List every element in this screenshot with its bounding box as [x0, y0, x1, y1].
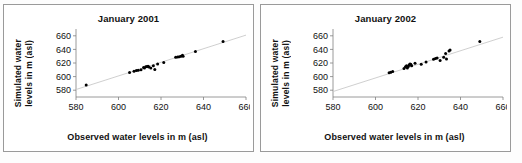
data-point	[442, 56, 445, 59]
y-axis-title: Simulated water levels in m (asl)	[267, 27, 295, 119]
data-point	[182, 55, 185, 58]
chart-panel-january-2001: January 2001 Simulated water levels in m…	[3, 4, 254, 152]
data-point	[128, 71, 131, 74]
plot-area: 580600620640660580600620640660	[38, 25, 250, 121]
scatter-plot-svg: 580600620640660580600620640660	[38, 25, 250, 121]
x-axis-title: Observed water levels in m (asl)	[283, 132, 506, 142]
data-point	[153, 68, 156, 71]
y-tick-label: 660	[56, 31, 71, 41]
data-point	[156, 63, 159, 66]
x-tick-label: 600	[368, 102, 383, 112]
data-point	[425, 60, 428, 63]
y-tick-label: 600	[313, 72, 328, 82]
x-tick-label: 620	[153, 102, 168, 112]
x-tick-label: 660	[495, 102, 507, 112]
y-axis-title-line1: Simulated water	[270, 39, 281, 107]
y-tick-label: 620	[56, 58, 71, 68]
y-axis-title: Simulated water levels in m (asl)	[10, 27, 38, 119]
y-tick-label: 660	[313, 31, 328, 41]
y-tick-label: 600	[56, 72, 71, 82]
data-point	[194, 50, 197, 53]
x-tick-label: 620	[410, 102, 425, 112]
chart-panel-january-2002: January 2002 Simulated water levels in m…	[260, 4, 511, 152]
data-point	[445, 57, 448, 60]
data-point	[162, 61, 165, 64]
data-point	[149, 67, 152, 70]
x-tick-label: 600	[111, 102, 126, 112]
figure-container: January 2001 Simulated water levels in m…	[0, 0, 522, 163]
y-tick-label: 640	[56, 45, 71, 55]
y-axis-title-line2: levels in m (asl)	[281, 40, 292, 107]
data-point	[152, 64, 155, 67]
x-tick-label: 640	[196, 102, 211, 112]
x-tick-label: 640	[453, 102, 468, 112]
data-point	[414, 62, 417, 65]
trend-line	[333, 37, 503, 91]
data-point	[85, 84, 88, 87]
x-tick-label: 660	[238, 102, 250, 112]
y-axis-title-line1: Simulated water	[13, 39, 24, 107]
data-point	[391, 70, 394, 73]
y-tick-label: 620	[313, 58, 328, 68]
data-point	[410, 64, 413, 67]
data-point	[436, 56, 439, 59]
chart-title: January 2001	[4, 13, 253, 24]
data-point	[449, 49, 452, 52]
y-tick-label: 580	[56, 85, 71, 95]
x-tick-label: 580	[68, 102, 83, 112]
x-tick-label: 580	[325, 102, 340, 112]
data-point	[137, 69, 140, 72]
y-tick-label: 580	[313, 85, 328, 95]
plot-area: 580600620640660580600620640660	[295, 25, 507, 121]
data-point	[140, 68, 143, 71]
data-point	[444, 52, 447, 55]
data-point	[478, 40, 481, 43]
x-axis-title: Observed water levels in m (asl)	[26, 132, 249, 142]
data-point	[420, 63, 423, 66]
trend-line	[76, 35, 246, 89]
y-axis-title-line2: levels in m (asl)	[24, 40, 35, 107]
scatter-plot-svg: 580600620640660580600620640660	[295, 25, 507, 121]
data-point	[439, 59, 442, 62]
y-tick-label: 640	[313, 45, 328, 55]
data-point	[222, 40, 225, 43]
chart-title: January 2002	[261, 13, 510, 24]
